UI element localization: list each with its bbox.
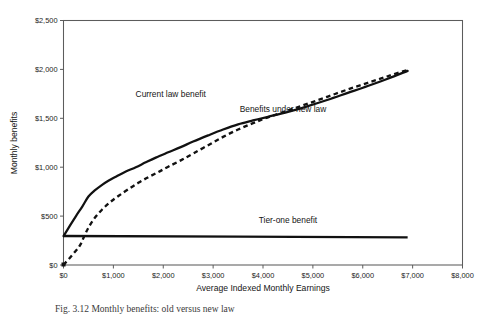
x-ticklabel: $1,000 [102,271,125,280]
figure-caption: Fig. 3.12 Monthly benefits: old versus n… [55,304,235,314]
annotation-label: Tier-one benefit [259,215,318,225]
x-ticklabel: $5,000 [302,271,325,280]
x-ticklabel: $0 [59,271,67,280]
x-ticklabel: $6,000 [351,271,374,280]
x-axis-title: Average Indexed Monthly Earnings [196,283,330,293]
x-ticklabel: $7,000 [401,271,424,280]
x-ticklabel: $3,000 [202,271,225,280]
figure-container: $0$500$1,000$1,500$2,000$2,500 $0$1,000$… [0,0,483,315]
y-ticklabel: $500 [41,212,57,221]
benefits-chart: $0$500$1,000$1,500$2,000$2,500 $0$1,000$… [0,0,483,315]
y-ticklabel: $2,000 [35,65,58,74]
y-ticklabel: $1,500 [35,114,58,123]
series-line-3 [64,236,408,237]
y-axis-title: Monthly benefits [9,112,19,175]
x-ticklabel: $2,000 [152,271,175,280]
x-ticklabel: $8,000 [451,271,474,280]
y-ticklabel: $0 [49,261,57,270]
annotation-label: Benefits under new law [240,104,328,114]
x-axis-ticklabels: $0$1,000$2,000$3,000$4,000$5,000$6,000$7… [59,271,473,280]
y-ticklabel: $2,500 [35,16,58,25]
annotation-label: Current law benefit [136,89,207,99]
chart-background [0,0,483,315]
origin-marker [62,263,66,267]
x-ticklabel: $4,000 [252,271,275,280]
y-ticklabel: $1,000 [35,163,58,172]
